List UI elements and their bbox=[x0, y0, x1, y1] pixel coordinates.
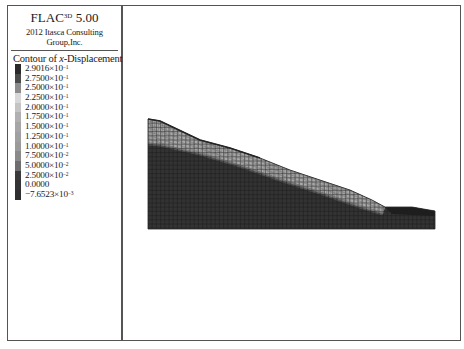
app-superscript: 3D bbox=[64, 12, 73, 20]
legend-swatch bbox=[15, 190, 21, 200]
legend-items: 2.9016×10−12.7500×10−12.5000×10−12.2500×… bbox=[15, 64, 121, 200]
legend-swatch bbox=[15, 112, 21, 122]
legend-divider bbox=[11, 50, 118, 51]
legend-swatch bbox=[15, 151, 21, 161]
legend-swatch bbox=[15, 180, 21, 190]
legend-swatch bbox=[15, 171, 21, 181]
legend-item: −7.6523×10−3 bbox=[15, 190, 121, 200]
legend-swatch bbox=[15, 132, 21, 142]
app-name: FLAC bbox=[31, 10, 64, 25]
contour-title-suffix: -Displacement bbox=[64, 53, 123, 64]
legend-label: −7.6523×10−3 bbox=[25, 190, 73, 200]
plot-area bbox=[123, 6, 460, 340]
slope-model bbox=[123, 6, 460, 340]
legend-swatch bbox=[15, 64, 21, 74]
legend-swatch bbox=[15, 103, 21, 113]
legend-swatch bbox=[15, 83, 21, 93]
copyright-text: 2012 Itasca Consulting Group,Inc. bbox=[8, 27, 121, 47]
app-version: 5.00 bbox=[76, 10, 99, 25]
legend-swatch bbox=[15, 122, 21, 132]
legend-swatch bbox=[15, 161, 21, 171]
app-title: FLAC3D 5.00 bbox=[8, 10, 121, 25]
legend-swatch bbox=[15, 142, 21, 152]
legend-swatch bbox=[15, 93, 21, 103]
legend-swatch bbox=[15, 74, 21, 84]
legend-panel: FLAC3D 5.00 2012 Itasca Consulting Group… bbox=[8, 6, 121, 200]
